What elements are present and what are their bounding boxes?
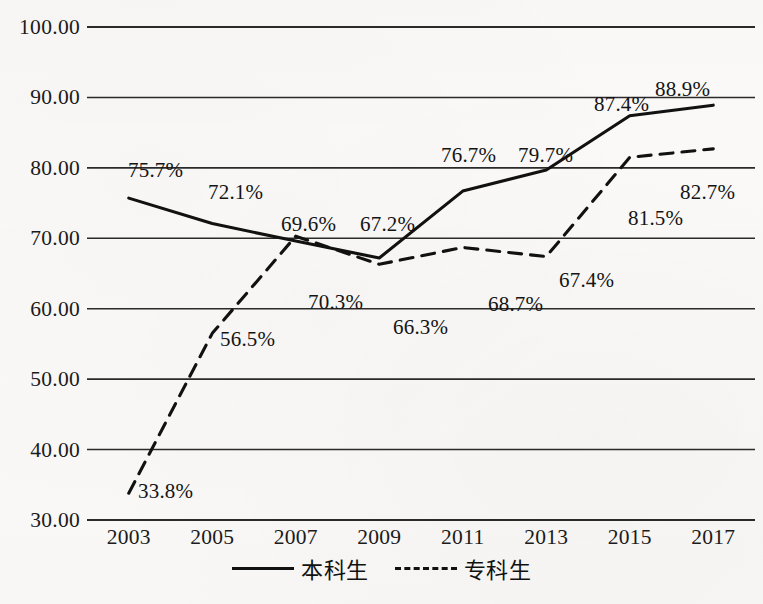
x-axis-tick-label: 2009 xyxy=(357,525,401,550)
y-axis-tick-label: 100.00 xyxy=(19,15,80,40)
data-point-label: 76.7% xyxy=(441,143,496,168)
data-point-label: 81.5% xyxy=(628,206,683,231)
y-axis-tick-label: 70.00 xyxy=(30,226,80,251)
data-point-label: 82.7% xyxy=(680,180,735,205)
data-point-label: 33.8% xyxy=(138,479,193,504)
data-point-label: 69.6% xyxy=(281,212,336,237)
y-axis-tick-label: 90.00 xyxy=(30,85,80,110)
y-axis: 100.0090.0080.0070.0060.0050.0040.0030.0… xyxy=(0,0,80,604)
legend-entry[interactable]: 本科生 xyxy=(232,552,369,584)
data-point-label: 66.3% xyxy=(393,315,448,340)
data-point-label: 70.3% xyxy=(308,290,363,315)
data-point-label: 79.7% xyxy=(518,143,573,168)
y-axis-tick-label: 60.00 xyxy=(30,296,80,321)
y-axis-tick-label: 40.00 xyxy=(30,437,80,462)
data-point-label: 67.2% xyxy=(360,212,415,237)
x-axis-tick-label: 2013 xyxy=(524,525,568,550)
line-chart: 100.0090.0080.0070.0060.0050.0040.0030.0… xyxy=(0,0,763,604)
data-point-label: 68.7% xyxy=(488,292,543,317)
x-axis-tick-label: 2017 xyxy=(691,525,735,550)
data-point-label: 87.4% xyxy=(594,92,649,117)
x-axis-tick-label: 2005 xyxy=(190,525,234,550)
y-axis-tick-label: 50.00 xyxy=(30,367,80,392)
legend-solid-line-icon xyxy=(232,567,294,570)
chart-legend: 本科生专科生 xyxy=(0,552,763,584)
x-axis-tick-label: 2007 xyxy=(274,525,318,550)
data-point-label: 75.7% xyxy=(128,158,183,183)
data-point-label: 67.4% xyxy=(559,268,614,293)
data-point-label: 88.9% xyxy=(655,77,710,102)
y-axis-tick-label: 30.00 xyxy=(30,508,80,533)
x-axis-tick-label: 2015 xyxy=(608,525,652,550)
x-axis-tick-label: 2011 xyxy=(441,525,484,550)
plot-area xyxy=(0,0,763,604)
y-axis-tick-label: 80.00 xyxy=(30,155,80,180)
legend-label: 本科生 xyxy=(301,552,369,584)
x-axis-tick-label: 2003 xyxy=(107,525,151,550)
legend-label: 专科生 xyxy=(464,552,532,584)
legend-dashed-line-icon xyxy=(395,567,457,570)
legend-entry[interactable]: 专科生 xyxy=(395,552,532,584)
data-point-label: 72.1% xyxy=(208,180,263,205)
data-point-label: 56.5% xyxy=(220,327,275,352)
